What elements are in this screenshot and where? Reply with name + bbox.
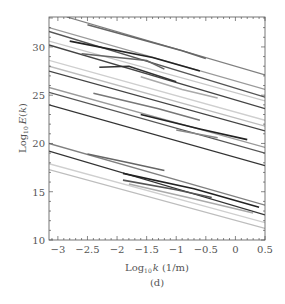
x-tick-label: 0 xyxy=(232,244,238,255)
fit-line xyxy=(49,45,265,109)
x-tick-label: −1.5 xyxy=(134,244,158,255)
y-tick-label: 15 xyxy=(32,187,45,198)
fit-line xyxy=(49,60,265,120)
fit-line xyxy=(49,143,265,205)
x-tick-label: −3 xyxy=(51,244,66,255)
y-tick-label: 30 xyxy=(32,42,45,53)
x-tick-label: −0.5 xyxy=(194,244,218,255)
data-segment xyxy=(87,154,164,170)
data-segment xyxy=(70,41,200,71)
x-tick-label: −1 xyxy=(169,244,184,255)
x-tick-label: −2 xyxy=(110,244,125,255)
y-tick-label: 10 xyxy=(32,235,45,246)
y-axis: 1015202530 xyxy=(32,18,265,246)
panel-caption: (d) xyxy=(150,277,164,288)
x-tick-label: −2.5 xyxy=(75,244,99,255)
x-tick-label: 0.5 xyxy=(257,244,273,255)
x-axis-title: Log10k (1/m) xyxy=(125,262,189,274)
spectrum-chart: −3−2.5−2−1.5−1−0.500.5 1015202530 Log10k… xyxy=(0,0,285,304)
fit-line xyxy=(49,31,265,97)
fit-line xyxy=(49,41,265,101)
fit-line xyxy=(49,105,265,166)
plot-lines xyxy=(49,17,265,228)
y-axis-title: Log10E(k) xyxy=(17,103,29,153)
y-tick-label: 20 xyxy=(32,138,45,149)
data-segment xyxy=(87,25,205,59)
fit-line xyxy=(49,164,265,223)
fit-line xyxy=(49,151,265,215)
y-tick-label: 25 xyxy=(32,90,45,101)
